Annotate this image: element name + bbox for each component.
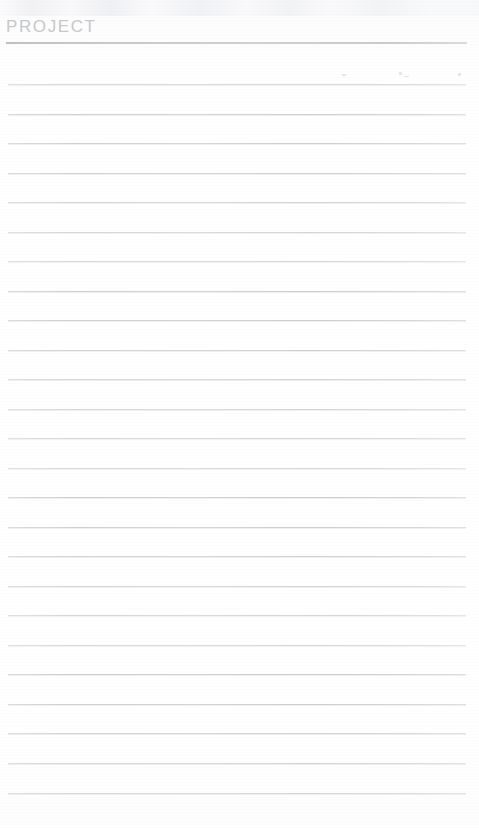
ruled-line — [8, 527, 466, 528]
notepad-page: PROJECT — [0, 0, 479, 828]
ruled-line — [8, 261, 466, 262]
ruled-lines-area — [0, 0, 479, 828]
ruled-line — [8, 409, 466, 410]
ruled-line — [8, 674, 466, 675]
ruled-line — [8, 291, 466, 292]
ruled-line — [8, 114, 466, 115]
ruled-line — [8, 556, 466, 557]
ruled-line — [8, 615, 466, 616]
ruled-line — [8, 84, 466, 85]
ruled-line — [8, 468, 466, 469]
ruled-line — [8, 793, 466, 794]
ruled-line — [8, 202, 466, 203]
ruled-line — [8, 232, 466, 233]
ruled-line — [8, 320, 466, 321]
ruled-line — [8, 143, 466, 144]
ruled-line — [8, 497, 466, 498]
ruled-line — [8, 379, 466, 380]
ruled-line — [8, 645, 466, 646]
ruled-line — [8, 704, 466, 705]
ruled-line — [8, 733, 466, 734]
ruled-line — [8, 350, 466, 351]
ruled-line — [8, 763, 466, 764]
ruled-line — [8, 173, 466, 174]
ruled-line — [8, 586, 466, 587]
ruled-line — [8, 438, 466, 439]
